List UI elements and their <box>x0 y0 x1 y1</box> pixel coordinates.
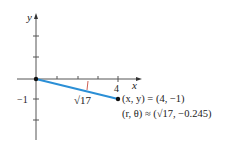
polar-coordinate-diagram: y x 4 −1 √17 (x, y) = (4, −1) (r, θ) ≈ (… <box>0 0 232 144</box>
y-axis-arrow-icon <box>34 13 38 19</box>
origin-point <box>34 77 38 81</box>
length-marker <box>87 81 88 90</box>
cartesian-annotation: (x, y) = (4, −1) <box>122 93 185 105</box>
point-4-neg1 <box>116 97 120 101</box>
polar-annotation: (r, θ) ≈ (√17, −0.245) <box>122 108 212 120</box>
y-axis-label: y <box>26 11 32 23</box>
y-tick-label-neg1: −1 <box>17 94 28 105</box>
segment-length-label: √17 <box>74 94 92 106</box>
x-axis-label: x <box>131 79 137 91</box>
x-axis-arrow-icon <box>136 77 142 81</box>
x-tick-label-4: 4 <box>114 83 119 94</box>
